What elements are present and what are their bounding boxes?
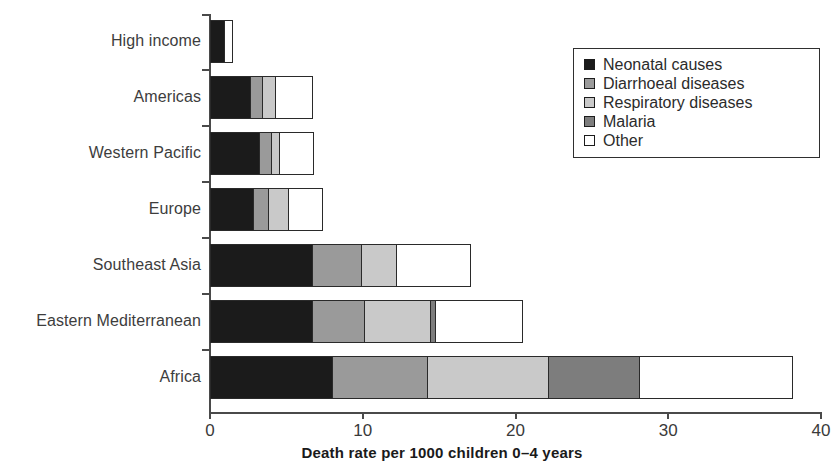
bar-segment-respiratory-diseases bbox=[268, 188, 288, 231]
x-axis-tick-label-10: 10 bbox=[353, 421, 372, 441]
bar-americas bbox=[210, 76, 313, 119]
bar-segment-neonatal-causes bbox=[210, 76, 250, 119]
bar-segment-diarrhoeal-diseases bbox=[250, 76, 262, 119]
bar-segment-diarrhoeal-diseases bbox=[332, 356, 427, 399]
y-axis-tick bbox=[202, 293, 210, 295]
legend-label: Other bbox=[603, 131, 643, 150]
y-axis-label-western-pacific: Western Pacific bbox=[0, 144, 201, 162]
y-axis-label-africa: Africa bbox=[0, 368, 201, 386]
bar-segment-other bbox=[275, 76, 313, 119]
bar-segment-other bbox=[435, 300, 524, 343]
bar-segment-other bbox=[279, 132, 314, 175]
legend-item-diarrhoeal-diseases: Diarrhoeal diseases bbox=[584, 74, 811, 93]
y-axis-tick bbox=[202, 69, 210, 71]
legend-item-neonatal-causes: Neonatal causes bbox=[584, 55, 811, 74]
bar-segment-respiratory-diseases bbox=[271, 132, 279, 175]
bar-segment-respiratory-diseases bbox=[427, 356, 548, 399]
bar-segment-respiratory-diseases bbox=[262, 76, 275, 119]
y-axis-tick bbox=[202, 237, 210, 239]
bar-segment-respiratory-diseases bbox=[364, 300, 430, 343]
bar-segment-neonatal-causes bbox=[210, 300, 312, 343]
bar-segment-malaria bbox=[548, 356, 640, 399]
legend-item-respiratory-diseases: Respiratory diseases bbox=[584, 93, 811, 112]
x-axis-tick-label-20: 20 bbox=[506, 421, 525, 441]
bar-eastern-mediterranean bbox=[210, 300, 523, 343]
bar-segment-neonatal-causes bbox=[210, 356, 332, 399]
legend-item-other: Other bbox=[584, 131, 811, 150]
bar-segment-diarrhoeal-diseases bbox=[312, 244, 361, 287]
chart-legend: Neonatal causesDiarrhoeal diseasesRespir… bbox=[573, 48, 820, 158]
legend-swatch-icon bbox=[584, 116, 595, 127]
bar-segment-diarrhoeal-diseases bbox=[312, 300, 364, 343]
legend-swatch-icon bbox=[584, 59, 595, 70]
legend-label: Diarrhoeal diseases bbox=[603, 74, 744, 93]
legend-swatch-icon bbox=[584, 135, 595, 146]
bar-segment-respiratory-diseases bbox=[361, 244, 396, 287]
legend-swatch-icon bbox=[584, 97, 595, 108]
bar-segment-other bbox=[224, 20, 233, 63]
legend-label: Neonatal causes bbox=[603, 55, 722, 74]
legend-label: Respiratory diseases bbox=[603, 93, 752, 112]
x-axis-tick-20 bbox=[515, 412, 517, 419]
y-axis-label-southeast-asia: Southeast Asia bbox=[0, 256, 201, 274]
y-axis-tick bbox=[202, 14, 210, 16]
bar-high-income bbox=[210, 20, 233, 63]
y-axis-label-europe: Europe bbox=[0, 200, 201, 218]
bar-segment-neonatal-causes bbox=[210, 132, 259, 175]
x-axis-tick-label-0: 0 bbox=[205, 421, 214, 441]
bar-segment-diarrhoeal-diseases bbox=[259, 132, 271, 175]
legend-item-malaria: Malaria bbox=[584, 112, 811, 131]
bar-western-pacific bbox=[210, 132, 314, 175]
x-axis-tick-10 bbox=[362, 412, 364, 419]
stacked-bar-chart: High incomeAmericasWestern PacificEurope… bbox=[0, 0, 836, 469]
x-axis-tick-40 bbox=[820, 412, 822, 419]
bar-segment-other bbox=[396, 244, 471, 287]
bar-segment-neonatal-causes bbox=[210, 188, 253, 231]
legend-label: Malaria bbox=[603, 112, 655, 131]
y-axis-tick bbox=[202, 349, 210, 351]
y-axis-tick bbox=[202, 181, 210, 183]
x-axis-tick-label-40: 40 bbox=[812, 421, 831, 441]
bar-segment-neonatal-causes bbox=[210, 20, 224, 63]
legend-swatch-icon bbox=[584, 78, 595, 89]
y-axis-tick bbox=[202, 125, 210, 127]
bar-segment-neonatal-causes bbox=[210, 244, 312, 287]
y-axis-label-eastern-mediterranean: Eastern Mediterranean bbox=[0, 312, 201, 330]
x-axis-tick-label-30: 30 bbox=[659, 421, 678, 441]
x-axis-tick-0 bbox=[209, 412, 211, 419]
bar-europe bbox=[210, 188, 323, 231]
bar-africa bbox=[210, 356, 793, 399]
bar-southeast-asia bbox=[210, 244, 471, 287]
bar-segment-diarrhoeal-diseases bbox=[253, 188, 268, 231]
y-axis-label-americas: Americas bbox=[0, 88, 201, 106]
bar-segment-other bbox=[288, 188, 323, 231]
x-axis-tick-30 bbox=[667, 412, 669, 419]
bar-segment-other bbox=[639, 356, 793, 399]
y-axis-label-high-income: High income bbox=[0, 32, 201, 50]
x-axis-title: Death rate per 1000 children 0–4 years bbox=[0, 444, 836, 461]
